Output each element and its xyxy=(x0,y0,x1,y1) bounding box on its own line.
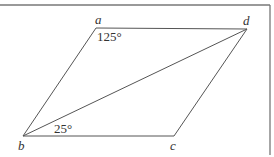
parallelogram-diagram: a d b c 125° 25° xyxy=(0,0,274,157)
angle-label-a: 125° xyxy=(97,29,122,44)
vertex-label-c: c xyxy=(170,138,176,153)
vertex-label-a: a xyxy=(95,12,102,27)
angle-label-b: 25° xyxy=(54,121,72,136)
diagonal-bd xyxy=(23,29,247,136)
vertex-label-b: b xyxy=(18,138,25,153)
vertex-label-d: d xyxy=(243,13,250,28)
